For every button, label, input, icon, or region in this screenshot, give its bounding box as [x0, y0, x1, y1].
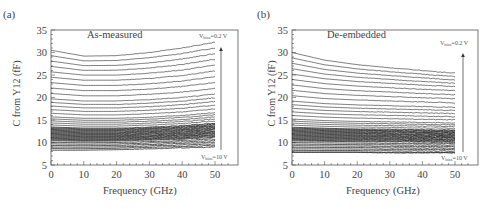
panel-a: 510152025303501020304050 (a) As-measured… — [0, 0, 245, 209]
panel-tag-a: (a) — [3, 8, 15, 20]
y-tick-label: 35 — [278, 25, 289, 36]
x-tick-label: 30 — [144, 169, 155, 180]
y-tick-label: 5 — [283, 160, 288, 171]
x-axis-label-a: Frequency (GHz) — [103, 185, 177, 196]
annotation-top-b: Vbias=0.2 V — [440, 40, 468, 47]
x-tick-label: 10 — [319, 169, 330, 180]
x-tick-label: 50 — [210, 169, 221, 180]
y-axis-label-a: C from Y12 (fF) — [11, 34, 22, 154]
y-tick-label: 20 — [37, 92, 48, 103]
arrow-head-icon — [219, 47, 223, 51]
y-tick-label: 10 — [37, 137, 48, 148]
y-tick-label: 25 — [37, 70, 48, 81]
annotation-bottom-a: Vbias=10 V — [201, 154, 228, 161]
panel-tag-b: (b) — [257, 8, 270, 20]
chart-title-b: De-embedded — [327, 29, 386, 40]
x-tick-label: 30 — [385, 169, 396, 180]
x-tick-label: 10 — [79, 169, 90, 180]
x-tick-label: 20 — [111, 169, 122, 180]
y-tick-label: 35 — [37, 25, 48, 36]
y-tick-label: 10 — [278, 137, 289, 148]
y-tick-label: 30 — [37, 47, 48, 58]
x-tick-label: 0 — [289, 169, 294, 180]
y-tick-label: 15 — [37, 115, 48, 126]
panel-b: 510152025303501020304050 (b) De-embedded… — [245, 0, 490, 209]
curve-family — [51, 42, 215, 150]
arrow-head-icon — [461, 53, 465, 57]
y-tick-label: 20 — [278, 92, 289, 103]
y-tick-label: 30 — [278, 47, 289, 58]
curve-family — [292, 53, 455, 154]
y-tick-label: 5 — [42, 160, 47, 171]
x-tick-label: 40 — [177, 169, 188, 180]
x-tick-label: 0 — [48, 169, 53, 180]
y-tick-label: 25 — [278, 70, 289, 81]
y-axis-label-b: C from Y12 (fF) — [266, 34, 277, 154]
x-tick-label: 40 — [417, 169, 428, 180]
annotation-bottom-b: Vbias=10 V — [441, 155, 468, 162]
y-tick-label: 15 — [278, 115, 289, 126]
chart-title-a: As-measured — [87, 29, 142, 40]
x-tick-label: 20 — [352, 169, 363, 180]
x-tick-label: 50 — [450, 169, 461, 180]
x-axis-label-b: Frequency (GHz) — [346, 185, 420, 196]
annotation-top-a: Vbias=0.2 V — [199, 33, 227, 40]
